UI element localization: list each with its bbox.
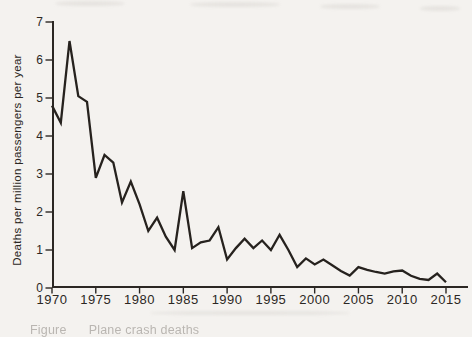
y-tick-label: 2	[36, 205, 43, 219]
x-tick-label: 2010	[387, 292, 418, 307]
y-axis-title: Deaths per million passengers per year	[11, 30, 27, 290]
x-tick-label: 1970	[37, 292, 68, 307]
x-tick-label: 2005	[343, 292, 374, 307]
y-tick-label: 5	[36, 91, 43, 105]
y-tick-label: 1	[36, 243, 43, 257]
y-tick-label: 4	[36, 129, 43, 143]
x-tick-label: 1990	[212, 292, 243, 307]
x-tick-label: 1985	[168, 292, 199, 307]
x-tick-label: 2000	[299, 292, 330, 307]
x-tick-label: 1980	[124, 292, 155, 307]
y-tick-label: 3	[36, 167, 43, 181]
x-tick-label: 1995	[255, 292, 286, 307]
x-tick-label: 1975	[80, 292, 111, 307]
y-tick-label: 7	[36, 15, 43, 29]
x-tick-label: 2015	[431, 292, 462, 307]
data-line	[52, 41, 446, 282]
figure-caption: Figure Plane crash deaths	[30, 323, 199, 337]
y-tick-label: 6	[36, 53, 43, 67]
